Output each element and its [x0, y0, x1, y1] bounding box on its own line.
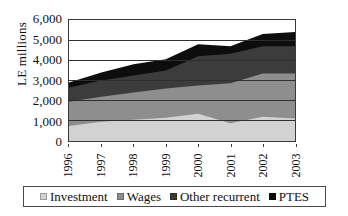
legend-label: Investment	[50, 190, 108, 203]
legend-item-investment[interactable]: Investment	[40, 190, 108, 203]
legend-item-wages[interactable]: Wages	[117, 190, 161, 203]
y-tick-label: 5,000	[16, 35, 62, 45]
y-tick-label: 4,000	[16, 55, 62, 65]
chart-legend: InvestmentWagesOther recurrentPTES	[23, 186, 326, 207]
legend-swatch-icon	[170, 193, 177, 200]
y-axis-tick-labels: 6,0005,0004,0003,0002,0001,0000	[12, 0, 62, 216]
x-tick-label: 1999	[158, 146, 173, 186]
x-tick-label: 2000	[191, 146, 206, 186]
y-tick-label: 2,000	[16, 96, 62, 106]
plot-svg	[69, 20, 295, 141]
x-tick-label: 1996	[61, 146, 76, 186]
legend-label: Wages	[127, 190, 161, 203]
y-tick-label: 3,000	[16, 76, 62, 86]
stacked-area-chart: LE millions 6,0005,0004,0003,0002,0001,0…	[0, 0, 348, 216]
y-tick-label: 6,000	[16, 14, 62, 24]
y-tick-label: 0	[16, 137, 62, 147]
legend-swatch-icon	[40, 193, 47, 200]
legend-swatch-icon	[117, 193, 124, 200]
x-axis-tick-labels: 19961997199819992000200120022003	[68, 144, 296, 184]
x-tick-label: 1998	[126, 146, 141, 186]
legend-item-ptes[interactable]: PTES	[269, 190, 309, 203]
x-tick-label: 2003	[289, 146, 304, 186]
x-tick-label: 2001	[223, 146, 238, 186]
x-tick-label: 1997	[93, 146, 108, 186]
legend-item-other-recurrent[interactable]: Other recurrent	[170, 190, 260, 203]
legend-swatch-icon	[269, 193, 276, 200]
x-tick-label: 2002	[256, 146, 271, 186]
plot-area	[68, 19, 296, 142]
y-tick-label: 1,000	[16, 117, 62, 127]
legend-label: PTES	[279, 190, 309, 203]
legend-label: Other recurrent	[180, 190, 260, 203]
